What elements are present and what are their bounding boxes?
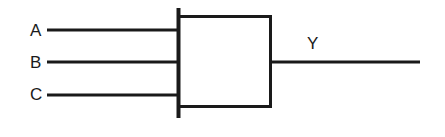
output-label-y: Y (307, 35, 319, 52)
input-label-a: A (30, 22, 42, 39)
input-label-c: C (30, 86, 42, 103)
logic-gate-diagram: A B C Y (0, 0, 445, 137)
gate-body-outline (178, 17, 271, 107)
input-label-b: B (30, 54, 42, 71)
gate-schematic-canvas (0, 0, 445, 137)
